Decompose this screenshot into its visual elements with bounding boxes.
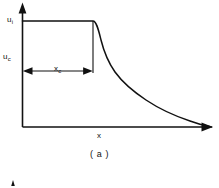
x-axis-label: x [97,131,101,140]
velocity-profile-chart [0,0,219,188]
velocity-profile-curve [23,21,212,127]
x-c-right-arrowhead-icon [83,67,93,75]
x-c-dimension-label-subscript: c [58,68,61,74]
y-axis-arrowhead-icon [19,3,27,14]
y-axis-label-subscript: c [8,56,11,62]
y-axis-value-label-ui-subscript: i [12,19,13,25]
y-axis-label: uc [3,52,11,62]
x-axis [23,123,214,132]
next-figure-axis-arrow-icon [11,180,15,186]
x-c-dimension-label: xc [54,64,61,74]
figure-container: ui uc xc x ( a ) [0,0,219,188]
figure-caption: ( a ) [90,150,109,159]
y-axis-value-label-ui: ui [7,15,13,25]
x-c-left-arrowhead-icon [23,67,33,75]
